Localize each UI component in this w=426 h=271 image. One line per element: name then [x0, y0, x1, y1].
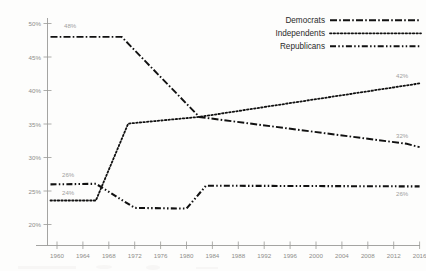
party-identification-line-chart: 50% 45% 40% 35% 30% 25% 20% 1960 1964 19…: [0, 0, 426, 271]
y-tick-label-25: 25%: [29, 188, 42, 195]
scan-artifact: [96, 265, 112, 269]
x-tick-label-1976: 1976: [154, 252, 168, 259]
x-tick-label-1972: 1972: [128, 252, 142, 259]
data-label-democrats-start: 48%: [64, 22, 77, 29]
scan-artifact: [18, 266, 76, 269]
legend-item-democrats[interactable]: Democrats: [285, 16, 421, 25]
x-tick-label-1960: 1960: [50, 252, 64, 259]
legend-item-independents[interactable]: Independents: [275, 29, 421, 38]
x-tick-label-1996: 1996: [283, 252, 297, 259]
chart-plot-area: 50% 45% 40% 35% 30% 25% 20% 1960 1964 19…: [0, 0, 426, 271]
x-tick-label-1992: 1992: [257, 252, 271, 259]
x-tick-label-1984: 1984: [206, 252, 220, 259]
y-tick-label-35: 35%: [29, 121, 42, 128]
x-tick-label-1964: 1964: [76, 252, 90, 259]
series-line-republicans: [51, 184, 420, 209]
y-tick-label-30: 30%: [29, 154, 42, 161]
x-tick-label-1988: 1988: [231, 252, 245, 259]
data-label-independents-start: 24%: [62, 189, 75, 196]
chart-legend: Democrats Independents Republicans: [275, 16, 421, 51]
x-tick-label-2012: 2012: [387, 252, 401, 259]
data-label-republicans-end: 26%: [396, 190, 409, 197]
y-tick-label-40: 40%: [29, 87, 42, 94]
series-line-independents: [51, 83, 420, 200]
data-label-democrats-end: 32%: [396, 132, 409, 139]
x-tick-label-1968: 1968: [102, 252, 116, 259]
x-tick-label-2004: 2004: [335, 252, 349, 259]
y-tick-label-50: 50%: [29, 20, 42, 27]
y-tick-label-45: 45%: [29, 54, 42, 61]
legend-label-democrats: Democrats: [285, 16, 325, 25]
x-tick-label-2016: 2016: [413, 252, 426, 259]
scan-artifact: [196, 267, 218, 269]
data-label-republicans-start: 26%: [62, 171, 75, 178]
legend-item-republicans[interactable]: Republicans: [280, 42, 421, 51]
data-label-independents-end: 42%: [396, 72, 409, 79]
x-tick-label-2000: 2000: [309, 252, 323, 259]
x-tick-label-2008: 2008: [361, 252, 375, 259]
x-tick-label-1980: 1980: [180, 252, 194, 259]
y-tick-label-20: 20%: [29, 221, 42, 228]
legend-label-independents: Independents: [275, 29, 325, 38]
legend-label-republicans: Republicans: [280, 42, 325, 51]
scan-artifact: [146, 265, 160, 270]
